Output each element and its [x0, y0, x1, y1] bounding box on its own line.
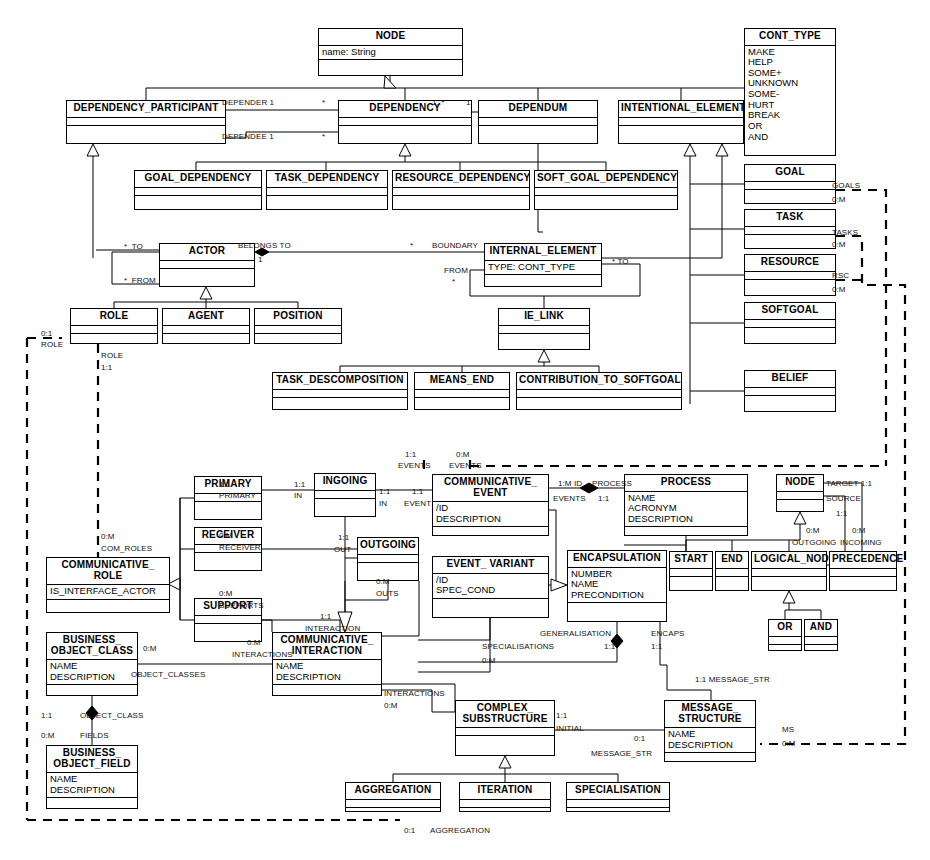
uml-class-ingoing[interactable]: INGOING: [314, 473, 376, 517]
uml-class-operations: [485, 275, 601, 284]
uml-class-and_node[interactable]: AND: [804, 619, 838, 651]
uml-class-attributes: [67, 118, 225, 126]
association-label: 1:1: [41, 712, 52, 721]
association-label: 1:1: [598, 495, 609, 504]
uml-class-attributes: [160, 261, 254, 269]
uml-class-name: IE_LINK: [499, 309, 589, 326]
association-label: INTERACTIONS: [384, 690, 445, 699]
uml-class-contrib_softgoal[interactable]: CONTRIBUTION_TO_SOFTGOAL: [516, 372, 682, 410]
uml-class-operations: [535, 196, 677, 205]
association-label: 1:1: [556, 712, 567, 721]
uml-class-operations: [273, 398, 407, 407]
uml-class-dep_participant[interactable]: DEPENDENCY_PARTICIPANT: [66, 100, 226, 144]
uml-class-operations: [67, 126, 225, 135]
uml-class-attributes: [535, 188, 677, 196]
uml-class-specialisation[interactable]: SPECIALISATION: [566, 782, 670, 812]
association-label: 1:1: [651, 643, 662, 652]
uml-class-precedence[interactable]: PRECEDENCE: [829, 551, 897, 591]
uml-class-complex_sub[interactable]: COMPLEX_ SUBSTRUCTURE: [455, 700, 555, 756]
uml-class-name: LOGICAL_NODE: [752, 552, 826, 569]
uml-class-dependum[interactable]: DEPENDUM: [478, 100, 598, 144]
uml-class-comm_event[interactable]: COMMUNICATIVE_ EVENT/ID DESCRIPTION: [432, 474, 549, 536]
uml-class-intentional_el[interactable]: INTENTIONAL_ELEMENT: [618, 100, 744, 144]
uml-class-end[interactable]: END: [715, 551, 749, 591]
uml-class-attributes: [456, 728, 554, 736]
association-label: 0:1: [634, 735, 645, 744]
uml-class-attributes: [745, 320, 835, 328]
uml-class-ie_link[interactable]: IE_LINK: [498, 308, 590, 350]
uml-class-task[interactable]: TASK: [744, 209, 836, 249]
association-label: 1:1: [836, 510, 847, 519]
uml-class-comm_role[interactable]: COMMUNICATIVE_ ROLEIS_INTERFACE_ACTOR: [46, 557, 170, 613]
uml-class-operations: [160, 269, 254, 278]
association-label: 1:1: [219, 481, 230, 490]
uml-class-name: INGOING: [315, 474, 375, 491]
uml-class-node_top[interactable]: NODEname: String: [318, 28, 463, 76]
uml-class-aggregation[interactable]: AGGREGATION: [345, 782, 441, 812]
association-label: 1:1 MESSAGE_STR: [695, 676, 770, 685]
uml-class-outgoing[interactable]: OUTGOING: [357, 537, 419, 581]
uml-class-agent[interactable]: AGENT: [162, 308, 250, 344]
uml-class-attributes: [358, 555, 418, 563]
uml-class-resource_dep[interactable]: RESOURCE_DEPENDENCY: [392, 170, 530, 210]
uml-class-internal_el[interactable]: INTERNAL_ELEMENTTYPE: CONT_TYPE: [484, 243, 602, 287]
uml-class-name: COMMUNICATIVE_ ROLE: [47, 558, 169, 585]
uml-class-operations: [393, 196, 529, 205]
uml-class-encapsulation[interactable]: ENCAPSULATIONNUMBER NAME PRECONDITION: [567, 550, 667, 622]
association-label: AGGREGATION: [430, 827, 490, 836]
uml-class-name: INTERNAL_ELEMENT: [485, 244, 601, 261]
uml-class-position[interactable]: POSITION: [254, 308, 342, 344]
uml-class-cont_type[interactable]: CONT_TYPEMAKE HELP SOME+ UNKNOWN SOME- H…: [744, 28, 836, 156]
uml-class-name: TASK: [745, 210, 835, 227]
uml-class-operations: [195, 624, 261, 633]
uml-class-attributes: [499, 326, 589, 334]
uml-class-dependency[interactable]: DEPENDENCY: [338, 100, 472, 144]
uml-class-attributes: [71, 326, 157, 334]
association-label: ROLE: [41, 341, 63, 350]
uml-class-operations: [745, 280, 835, 289]
uml-class-softgoal_dep[interactable]: SOFT_GOAL_DEPENDENCY: [534, 170, 678, 210]
uml-class-bus_obj_field[interactable]: BUSINESS_ OBJECT_FIELDNAME DESCRIPTION: [46, 745, 138, 809]
uml-class-belief[interactable]: BELIEF: [744, 370, 836, 412]
uml-class-node_low[interactable]: NODE: [776, 474, 824, 512]
association-label: FROM: [444, 267, 468, 276]
association-label: 0:M: [101, 533, 115, 542]
uml-class-comm_interact[interactable]: COMMUNICATIVE_ INTERACTIONNAME DESCRIPTI…: [272, 632, 382, 696]
uml-class-name: START: [670, 552, 712, 569]
uml-class-logical_node[interactable]: LOGICAL_NODE: [751, 551, 827, 591]
uml-class-goal_dep[interactable]: GOAL_DEPENDENCY: [134, 170, 262, 210]
uml-class-or_node[interactable]: OR: [768, 619, 802, 651]
uml-class-name: EVENT_ VARIANT: [433, 557, 548, 574]
uml-class-operations: [752, 577, 826, 586]
uml-class-attributes: [339, 118, 471, 126]
association-label: SUPPORTS: [219, 602, 264, 611]
uml-class-resource[interactable]: RESOURCE: [744, 254, 836, 296]
uml-class-task_dep[interactable]: TASK_DEPENDENCY: [266, 170, 388, 210]
uml-class-role[interactable]: ROLE: [70, 308, 158, 344]
uml-class-name: SPECIALISATION: [567, 783, 669, 800]
uml-class-process[interactable]: PROCESSNAME ACRONYM DESCRIPTION: [624, 474, 748, 536]
uml-class-iteration[interactable]: ITERATION: [459, 782, 551, 812]
association-label: BELONGS TO: [238, 242, 291, 251]
uml-class-means_end[interactable]: MEANS_END: [414, 372, 510, 410]
uml-class-goal[interactable]: GOAL: [744, 164, 836, 204]
uml-class-bus_obj_class[interactable]: BUSINESS_ OBJECT_CLASSNAME DESCRIPTION: [46, 632, 138, 696]
uml-class-attributes: MAKE HELP SOME+ UNKNOWN SOME- HURT BREAK…: [745, 46, 835, 145]
uml-class-name: TASK_DESCOMPOSITION: [273, 373, 407, 390]
uml-class-operations: [460, 808, 550, 817]
uml-class-name: NODE: [319, 29, 462, 46]
uml-class-name: INTENTIONAL_ELEMENT: [619, 101, 743, 118]
association-label: GENERALISATION: [540, 630, 611, 639]
uml-class-msg_structure[interactable]: MESSAGE_ STRUCTURENAME DESCRIPTION: [664, 700, 756, 762]
uml-class-start[interactable]: START: [669, 551, 713, 591]
uml-class-operations: [456, 736, 554, 745]
uml-class-operations: [805, 645, 837, 654]
uml-class-event_variant[interactable]: EVENT_ VARIANT/ID SPEC_COND: [432, 556, 549, 618]
uml-class-operations: [777, 500, 823, 509]
uml-class-operations: [47, 685, 137, 694]
uml-class-softgoal[interactable]: SOFTGOAL: [744, 302, 836, 344]
uml-class-attributes: [752, 569, 826, 577]
uml-class-name: AGGREGATION: [346, 783, 440, 800]
uml-class-task_decomp[interactable]: TASK_DESCOMPOSITION: [272, 372, 408, 410]
uml-class-name: SOFTGOAL: [745, 303, 835, 320]
